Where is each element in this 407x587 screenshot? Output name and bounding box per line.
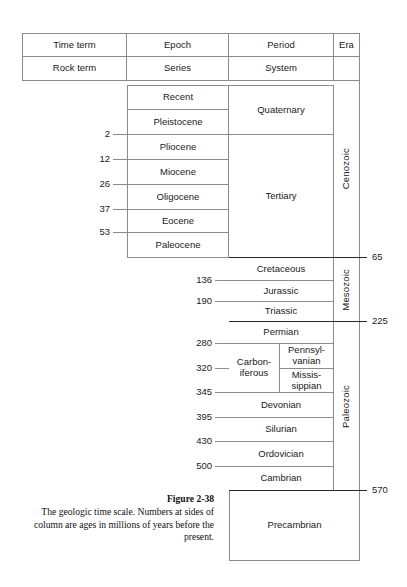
epoch-oligocene-label: Oligocene [157,192,200,203]
era-mesozoic-label: Mesozoic [341,269,352,311]
boundary-label-570: 570 [372,484,388,495]
age-label-26: 26 [84,178,110,189]
age-label-2: 2 [84,128,110,139]
period-jurassic: Jurassic [229,281,334,302]
period-cretaceous: Cretaceous [229,258,334,281]
tick-345 [215,392,229,393]
era-mesozoic: Mesozoic [334,258,360,322]
epoch-eocene-label: Eocene [162,216,194,227]
figure-caption-body: The geologic time scale. Numbers at side… [16,506,214,544]
figure-caption-title: Figure 2-38 [16,493,214,506]
period-permian-label: Permian [263,327,298,338]
period-silurian-label: Silurian [265,424,297,435]
tick-430 [215,441,229,442]
tick-2 [113,134,127,135]
tick-12 [113,159,127,160]
subperiod-mississippian: Missis- sippian [280,369,334,393]
header-time-term-label: Time term [53,40,95,51]
epoch-miocene: Miocene [127,160,229,185]
figure-caption: Figure 2-38 The geologic time scale. Num… [16,493,214,544]
tick-37 [113,209,127,210]
age-label-500: 500 [183,460,212,471]
boundary-rule-65 [229,257,367,258]
boundary-rule-570 [229,490,367,491]
period-tertiary: Tertiary [229,135,334,258]
boundary-label-225: 225 [372,315,388,326]
subperiod-pennsylvanian-label: Pennsyl- vanian [288,345,325,366]
period-silurian: Silurian [229,418,334,442]
period-triassic-label: Triassic [265,306,297,317]
header-time-term: Time term [22,33,127,57]
tick-500 [215,466,229,467]
header-era: Era [334,33,360,57]
period-jurassic-label: Jurassic [264,286,299,297]
period-carboniferous: Carbon- iferous [229,344,280,393]
period-quaternary-label: Quaternary [257,105,305,116]
age-label-12: 12 [84,153,110,164]
subperiod-mississippian-label: Missis- sippian [291,370,321,391]
epoch-recent-label: Recent [163,92,193,103]
boundary-rule-225 [229,321,367,322]
subperiod-pennsylvanian: Pennsyl- vanian [280,344,334,369]
epoch-miocene-label: Miocene [160,167,196,178]
tick-53 [113,232,127,233]
period-tertiary-label: Tertiary [265,191,296,202]
header-era-blank [334,57,360,81]
epoch-pliocene-label: Pliocene [160,142,196,153]
header-period: Period [229,33,334,57]
period-permian: Permian [229,322,334,344]
age-label-190: 190 [183,295,212,306]
period-cretaceous-label: Cretaceous [257,264,306,275]
tick-26 [113,184,127,185]
period-cambrian: Cambrian [229,467,334,491]
header-epoch: Epoch [127,33,229,57]
period-precambrian: Precambrian [229,491,360,561]
boundary-label-65: 65 [372,251,383,262]
tick-395 [215,417,229,418]
epoch-eocene: Eocene [127,210,229,233]
tick-136 [215,280,229,281]
header-series-label: Series [164,63,191,74]
period-cambrian-label: Cambrian [260,473,301,484]
period-quaternary: Quaternary [229,85,334,135]
epoch-recent: Recent [127,85,229,110]
epoch-paleocene-label: Paleocene [156,240,201,251]
age-label-320: 320 [183,362,212,373]
header-system: System [229,57,334,81]
header-period-label: Period [267,40,294,51]
geologic-time-scale-figure: Time term Epoch Period Era Rock term Ser… [0,0,407,587]
period-triassic: Triassic [229,302,334,322]
era-cenozoic-label: Cenozoic [341,148,352,189]
period-ordovician-label: Ordovician [258,449,303,460]
epoch-oligocene: Oligocene [127,185,229,210]
header-rock-term: Rock term [22,57,127,81]
era-cenozoic: Cenozoic [334,81,360,258]
epoch-pleistocene-label: Pleistocene [153,117,202,128]
period-ordovician: Ordovician [229,442,334,467]
age-label-430: 430 [183,435,212,446]
period-devonian-label: Devonian [261,400,301,411]
tick-280 [215,343,229,344]
period-precambrian-label: Precambrian [268,520,322,531]
header-system-label: System [265,63,297,74]
epoch-paleocene: Paleocene [127,233,229,258]
tick-320 [215,368,229,369]
age-label-37: 37 [84,203,110,214]
header-epoch-label: Epoch [164,40,191,51]
header-series: Series [127,57,229,81]
header-rock-term-label: Rock term [53,63,96,74]
era-paleozoic-label: Paleozoic [341,385,352,428]
era-paleozoic: Paleozoic [334,322,360,491]
epoch-pliocene: Pliocene [127,135,229,160]
age-label-280: 280 [183,337,212,348]
period-carboniferous-label: Carbon- iferous [237,357,271,378]
age-label-136: 136 [183,274,212,285]
tick-190 [215,301,229,302]
age-label-53: 53 [84,226,110,237]
header-era-label: Era [339,40,354,51]
epoch-pleistocene: Pleistocene [127,110,229,135]
age-label-395: 395 [183,411,212,422]
period-devonian: Devonian [229,393,334,418]
age-label-345: 345 [183,386,212,397]
